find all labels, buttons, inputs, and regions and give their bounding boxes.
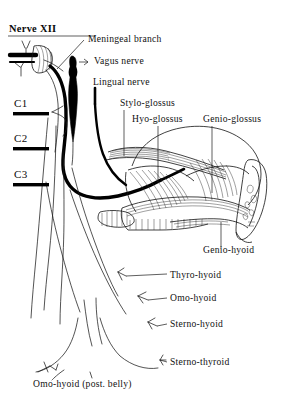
label-vagus-nerve: Vagus nerve [94,55,144,66]
genio-glossus-muscle [186,159,249,201]
figure-page: Nerve XII [0,0,293,415]
label-hyo-glossus: Hyo-glossus [132,113,183,124]
segment-label-c3: C3 [14,168,28,180]
label-sterno-thyroid: Sterno-thyroid [170,356,229,367]
label-stylo-glossus: Stylo-glossus [120,97,175,108]
segment-bar-c3 [13,183,49,186]
label-genio-glossus: Genio-glossus [203,113,261,124]
mandible-bone [236,160,267,243]
hypoglossal-rootlets [14,41,30,76]
vagus-nerve-trunk [69,56,78,165]
segment-bar-c1 [13,112,49,115]
label-meningeal-branch: Meningeal branch [88,33,162,44]
omo-hyoid-contour [36,298,158,380]
hypoglossal-companion-line [46,70,58,152]
label-omo-hyoid: Omo-hyoid [170,292,217,303]
label-omo-hyoid-post-belly: Omo-hyoid (post. belly) [33,378,132,390]
tongue-floor-striations [121,197,250,230]
segment-label-c2: C2 [14,132,27,144]
ansa-cervicalis [31,106,126,324]
label-sterno-hyoid: Sterno-hyoid [170,318,223,329]
segment-label-c1: C1 [14,97,27,109]
anatomical-diagram: Nerve XII [0,0,293,415]
hyoid-region [98,211,134,228]
label-thyro-hyoid: Thyro-hyoid [170,269,221,280]
label-lingual-nerve: Lingual nerve [93,76,150,87]
figure-title: Nerve XII [9,23,56,34]
segment-bar-c2 [13,147,49,150]
tongue-outline [132,126,261,174]
nerve-branch-terminals [38,268,166,372]
label-genio-hyoid: Genio-hyoid [203,244,254,255]
hypoglossal-striated-segment [32,46,53,74]
